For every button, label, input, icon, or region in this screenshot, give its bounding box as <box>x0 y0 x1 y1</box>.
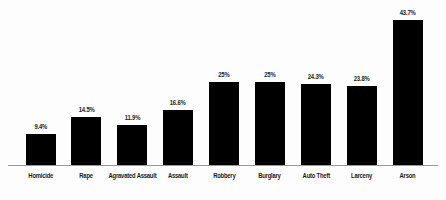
category-cell: Agravated Assault <box>110 171 155 187</box>
bar-robbery[interactable] <box>209 82 239 166</box>
bar-group-auto-theft[interactable]: 24.3% <box>293 8 338 165</box>
bar-assault[interactable] <box>163 110 193 165</box>
bar-value-label: 14.5% <box>78 105 94 114</box>
category-label-burglary: Burglary <box>259 171 282 180</box>
bar-rape[interactable] <box>71 117 101 165</box>
plot-area: 9.4% 14.5% 11.9% 16.6% 25% 25% 24.3% <box>18 8 430 165</box>
bar-auto-theft[interactable] <box>301 84 331 165</box>
axis-baseline <box>8 165 438 166</box>
bar-value-label: 16.6% <box>170 98 186 107</box>
bar-value-label: 24.3% <box>308 72 324 81</box>
bar-group-rape[interactable]: 14.5% <box>64 8 109 165</box>
category-label-rape: Rape <box>80 171 94 180</box>
category-axis-labels: Homicide Rape Agravated Assault Assault … <box>18 171 430 187</box>
bar-group-larceny[interactable]: 23.8% <box>339 8 384 165</box>
bar-value-label: 25% <box>264 70 275 79</box>
bar-arson[interactable] <box>393 20 423 165</box>
bar-value-label: 23.8% <box>354 74 370 83</box>
bar-group-agravated-assault[interactable]: 11.9% <box>110 8 155 165</box>
bar-larceny[interactable] <box>347 86 377 166</box>
category-cell: Larceny <box>339 171 384 187</box>
bar-burglary[interactable] <box>255 82 285 166</box>
category-label-assault: Assault <box>168 171 188 180</box>
category-cell: Arson <box>385 171 430 187</box>
category-cell: Assault <box>156 171 201 187</box>
category-label-auto-theft: Auto Theft <box>302 171 329 180</box>
category-label-homicide: Homicide <box>28 171 53 180</box>
category-label-larceny: Larceny <box>351 171 372 180</box>
category-label-robbery: Robbery <box>213 171 235 180</box>
category-cell: Homicide <box>18 171 63 187</box>
category-label-agravated-assault: Agravated Assault <box>108 171 156 180</box>
bar-value-label: 25% <box>218 70 229 79</box>
category-label-arson: Arson <box>400 171 416 180</box>
bar-group-homicide[interactable]: 9.4% <box>18 8 63 165</box>
bar-value-label: 43.7% <box>400 8 416 17</box>
bar-group-arson[interactable]: 43.7% <box>385 8 430 165</box>
bar-chart: 9.4% 14.5% 11.9% 16.6% 25% 25% 24.3% <box>0 0 446 200</box>
bar-group-assault[interactable]: 16.6% <box>156 8 201 165</box>
bar-value-label: 9.4% <box>34 122 47 131</box>
bar-homicide[interactable] <box>26 134 56 165</box>
bar-agravated-assault[interactable] <box>117 125 147 165</box>
bar-value-label: 11.9% <box>124 113 140 122</box>
category-cell: Auto Theft <box>293 171 338 187</box>
bar-group-robbery[interactable]: 25% <box>202 8 247 165</box>
category-cell: Robbery <box>202 171 247 187</box>
bar-group-burglary[interactable]: 25% <box>247 8 292 165</box>
category-cell: Rape <box>64 171 109 187</box>
category-cell: Burglary <box>247 171 292 187</box>
